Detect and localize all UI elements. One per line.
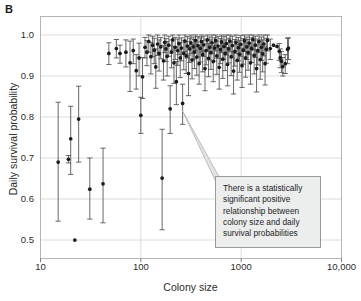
y-tick-label-1: 1.0 [0,29,34,40]
y-tick-label-0-7: 0.7 [0,152,34,163]
x-tick-marks [41,259,342,263]
x-tick-label-100: 100 [111,261,171,272]
y-tick-label-0-8: 0.8 [0,111,34,122]
annotation-callout: There is a statistically significant pos… [215,176,321,248]
x-tick-label-10: 10 [11,261,71,272]
y-tick-label-0-9: 0.9 [0,70,34,81]
y-tick-label-0-5: 0.5 [0,234,34,245]
y-tick-label-0-6: 0.6 [0,193,34,204]
x-tick-label-10000: 10,000 [312,261,361,272]
x-tick-label-1000: 1000 [211,261,271,272]
x-axis-title: Colony size [40,281,341,293]
annotation-text: There is a statistically significant pos… [223,183,302,238]
